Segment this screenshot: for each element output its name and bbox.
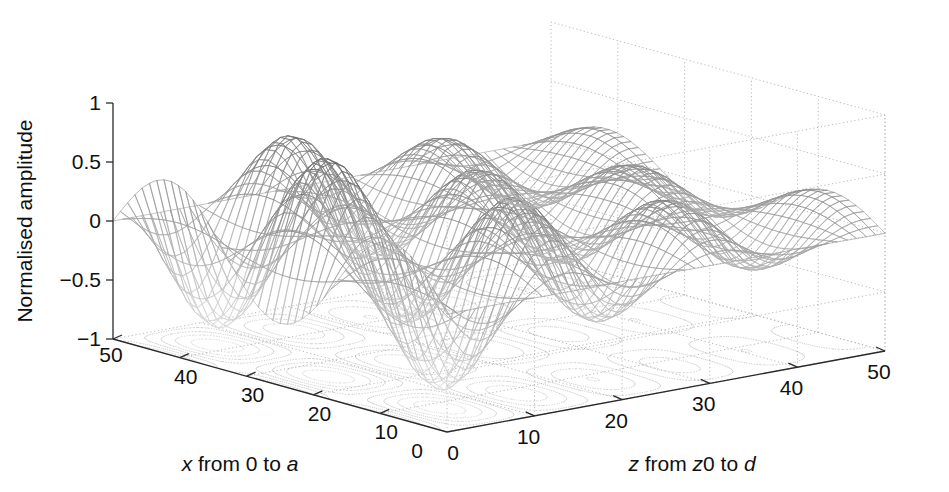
x-tick-label: 0	[411, 439, 423, 462]
y-tick-label: 20	[605, 409, 628, 432]
x-tick-label: 10	[375, 420, 398, 443]
z-tick-label: 1	[89, 91, 101, 114]
axis-label-layer: 10.50−0.5−15040302010001020304050Normali…	[13, 91, 891, 475]
z-tick-label: −0.5	[60, 268, 101, 291]
z-axis-title: Normalised amplitude	[13, 119, 36, 322]
z-tick-label: −1	[77, 327, 101, 350]
y-tick-label: 10	[517, 425, 540, 448]
x-tick-label: 20	[308, 402, 331, 425]
y-axis-title: z from z0 to d	[627, 452, 757, 475]
surface-mesh-layer	[113, 127, 885, 390]
x-tick-label: 50	[99, 343, 122, 366]
z-tick-label: 0.5	[72, 150, 101, 173]
surface-plot-figure: 10.50−0.5−15040302010001020304050Normali…	[0, 0, 949, 492]
y-tick-label: 30	[692, 392, 715, 415]
y-tick-label: 50	[867, 360, 890, 383]
x-tick-label: 30	[241, 383, 264, 406]
z-tick-label: 0	[89, 209, 101, 232]
x-tick-label: 40	[174, 365, 197, 388]
y-tick-label: 0	[447, 441, 459, 464]
x-axis-title: x from 0 to a	[181, 452, 299, 475]
y-tick-label: 40	[780, 376, 803, 399]
